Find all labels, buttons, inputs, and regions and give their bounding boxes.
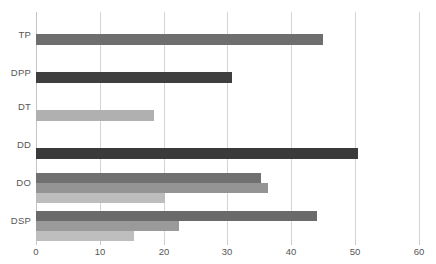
y-axis-tick-label-dsp: DSP (11, 215, 31, 226)
bar-do-series-3 (36, 193, 165, 203)
x-axis-tick-label-0: 0 (21, 246, 51, 257)
gridline-20 (164, 12, 165, 240)
gridline-10 (100, 12, 101, 240)
horizontal-bar-chart: TP DPP DT DD DO DSP (0, 0, 436, 264)
y-axis-tick-label-tp: TP (18, 29, 31, 40)
bar-dt-series-1 (36, 110, 154, 121)
bar-do-series-1 (36, 173, 261, 183)
bar-tp-series-1 (36, 34, 323, 45)
y-axis-label-column: TP DPP DT DD DO DSP (0, 0, 31, 264)
gridline-60 (419, 12, 420, 240)
x-axis-tick-label-10: 10 (85, 246, 115, 257)
bar-dsp-series-2 (36, 221, 179, 231)
x-axis-tick-label-30: 30 (212, 246, 242, 257)
bar-dsp-series-3 (36, 231, 134, 241)
x-axis-tick-label-20: 20 (149, 246, 179, 257)
gridline-50 (355, 12, 356, 240)
x-tick-30 (227, 240, 228, 245)
bar-dd-series-1 (36, 148, 358, 159)
y-axis-tick-label-dt: DT (18, 101, 31, 112)
gridline-30 (227, 12, 228, 240)
x-axis-tick-label-60: 60 (404, 246, 434, 257)
y-axis-tick-label-do: DO (16, 177, 31, 188)
bar-do-series-2 (36, 183, 268, 193)
x-axis-tick-label-50: 50 (340, 246, 370, 257)
x-tick-60 (419, 240, 420, 245)
x-tick-40 (291, 240, 292, 245)
bar-dpp-series-1 (36, 72, 232, 83)
x-tick-50 (355, 240, 356, 245)
bar-dsp-series-1 (36, 211, 317, 221)
gridline-0 (36, 12, 37, 240)
x-tick-20 (164, 240, 165, 245)
gridline-40 (291, 12, 292, 240)
y-axis-tick-label-dpp: DPP (11, 67, 31, 78)
y-axis-tick-label-dd: DD (17, 139, 31, 150)
x-axis-tick-label-40: 40 (276, 246, 306, 257)
plot-area (36, 12, 419, 240)
